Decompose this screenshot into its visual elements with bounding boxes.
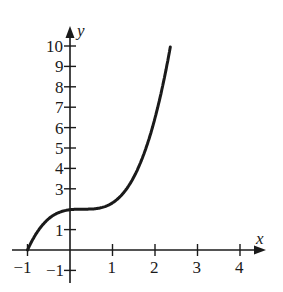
x-tick-label: −1 bbox=[14, 258, 32, 277]
y-tick-label: 10 bbox=[46, 37, 63, 56]
x-tick-label: 2 bbox=[150, 258, 159, 277]
y-tick-label: 3 bbox=[55, 180, 64, 199]
y-tick-label: 9 bbox=[55, 57, 64, 76]
x-axis-label: x bbox=[255, 229, 264, 248]
y-tick-label: 5 bbox=[55, 139, 64, 158]
function-curve bbox=[28, 47, 171, 250]
y-axis-label: y bbox=[75, 21, 85, 40]
y-tick-label: 1 bbox=[55, 221, 64, 240]
chart-container: −11234−11345678910 x y bbox=[0, 0, 283, 292]
y-axis-arrow-icon bbox=[66, 26, 75, 38]
x-tick-label: 3 bbox=[193, 258, 202, 277]
x-tick-label: 4 bbox=[235, 258, 244, 277]
y-tick-label: 6 bbox=[55, 119, 64, 138]
y-tick-label: 7 bbox=[55, 98, 64, 117]
axes bbox=[12, 26, 266, 283]
y-tick-label: −1 bbox=[46, 261, 64, 280]
function-plot: −11234−11345678910 x y bbox=[0, 0, 283, 292]
x-tick-label: 1 bbox=[108, 258, 117, 277]
y-tick-label: 8 bbox=[55, 78, 64, 97]
tick-labels: −11234−11345678910 bbox=[14, 37, 245, 280]
y-tick-label: 4 bbox=[55, 159, 64, 178]
